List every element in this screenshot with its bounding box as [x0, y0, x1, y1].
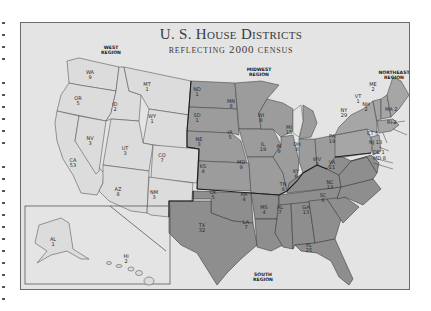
map-frame: U. S. House Districts reflecting 2000 ce…	[20, 22, 410, 290]
state-label-az: AZ8	[115, 187, 122, 198]
state-label-wv: WV3	[313, 157, 321, 168]
page: U. S. House Districts reflecting 2000 ce…	[0, 0, 431, 311]
state-label-wi: WI8	[258, 113, 264, 124]
state-label-ak: AL1	[50, 237, 56, 248]
state-label-oh: OH8	[293, 142, 301, 153]
region-label-northeast: NORTHEASTREGION	[378, 70, 409, 80]
state-label-tn: TN9	[280, 182, 287, 193]
state-label-mo: MO9	[237, 160, 245, 171]
state-label-ky: KY6	[293, 169, 299, 180]
state-label-ks: KS4	[200, 164, 206, 175]
state-label-nm: NM3	[150, 190, 158, 201]
state-label-tx: TX32	[199, 223, 205, 234]
state-label-md: MD 8	[373, 156, 386, 161]
state-label-id: ID2	[112, 102, 117, 113]
state-label-ct: CT 5	[367, 131, 378, 136]
callout-ri	[393, 129, 407, 135]
state-label-hi: HI2	[123, 254, 128, 265]
state-label-la: LA7	[243, 220, 249, 231]
west-region-shapes	[55, 58, 199, 217]
state-label-ar: AR4	[241, 192, 248, 203]
us-map	[21, 23, 410, 290]
state-label-ut: UT3	[122, 146, 129, 157]
state-label-nh: NH2	[362, 102, 370, 113]
state-label-ny: NY29	[341, 108, 348, 119]
cropped-margin-text	[0, 0, 12, 311]
state-label-va: VA11	[329, 160, 336, 171]
state-fl	[295, 239, 353, 285]
region-label-south: SOUTHREGION	[253, 272, 273, 282]
state-label-ca: CA53	[70, 158, 77, 169]
state-label-fl: FL25	[306, 243, 312, 254]
state-label-il: IL19	[260, 142, 266, 153]
state-label-in: IN9	[276, 144, 281, 155]
state-co	[151, 145, 199, 183]
state-label-ok: OK5	[209, 190, 216, 201]
state-label-ms: MS4	[260, 205, 268, 216]
state-label-mn: MN8	[227, 99, 235, 110]
state-label-sd: SD1	[193, 113, 200, 124]
state-label-sc: SC6	[320, 193, 327, 204]
callout-ct	[383, 133, 387, 143]
state-label-co: CO7	[158, 153, 165, 164]
state-label-mt: MT1	[143, 82, 150, 93]
hawaii-islands	[107, 262, 155, 286]
state-label-nd: ND1	[193, 87, 201, 98]
state-label-mi: MI15	[286, 125, 292, 136]
state-label-nv: NV3	[86, 136, 93, 147]
state-label-ia: IA5	[228, 130, 233, 141]
state-ak	[35, 218, 89, 263]
region-label-midwest: MIDWESTREGION	[247, 67, 272, 77]
state-label-ne: NE3	[196, 137, 203, 148]
state-label-nc: NC13	[326, 180, 333, 191]
state-label-ri: RI 2	[387, 120, 397, 125]
state-label-al: AL7	[277, 205, 283, 216]
state-label-pa: PA19	[329, 134, 335, 145]
state-label-nj: NJ 13	[369, 140, 382, 145]
state-label-ma: MA 2	[385, 107, 398, 112]
state-label-ga: GA13	[302, 205, 309, 216]
state-label-wa: WA9	[86, 70, 94, 81]
state-label-or: OR5	[74, 96, 81, 107]
region-label-west: WESTREGION	[101, 45, 121, 55]
state-label-wy: WY1	[148, 114, 156, 125]
state-label-vt: VT1	[355, 94, 361, 105]
state-label-me: ME2	[369, 82, 376, 93]
